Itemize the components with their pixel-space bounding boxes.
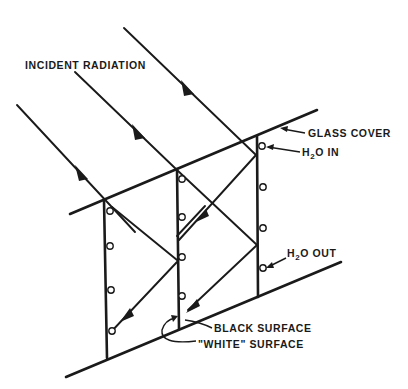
tube-icon [107,208,113,214]
vertical-plate-1 [104,200,107,358]
glass-cover-line [70,110,317,214]
tube-icon [179,254,185,260]
tube-icon [109,328,115,334]
incident-ray-2 [75,72,257,313]
arrow-icon [132,124,145,140]
label-incident-radiation: INCIDENT RADIATION [25,59,146,71]
arrow-icon [196,209,209,222]
label-black-surface: BLACK SURFACE [214,322,312,334]
vertical-plate-2 [177,169,179,329]
tube-icon [108,287,114,293]
tube-icon [179,293,185,299]
label-h2o-in: H2O IN [302,146,339,161]
arrow-icon [186,299,200,313]
arrow-icon [181,80,194,96]
incident-ray-1 [17,105,177,260]
label-glass-cover: GLASS COVER [308,127,391,139]
tube-icon [107,243,113,249]
reflected-ray-cell-1 [110,206,205,333]
label-white-surface: "WHITE" SURFACE [198,338,304,350]
tube-icon [179,176,185,182]
tube-icon [179,214,185,220]
tube-icon [259,143,265,149]
tube-icon [260,184,266,190]
label-h2o-out: H2O OUT [287,247,337,262]
tube-icon [260,225,266,231]
collector-diagram: INCIDENT RADIATION GLASS COVER H2O IN H2… [0,0,408,389]
arrow-icon [75,165,88,181]
vertical-plate-3 [257,136,258,297]
tube-icon [260,265,266,271]
diagram-canvas: INCIDENT RADIATION GLASS COVER H2O IN H2… [0,0,408,389]
